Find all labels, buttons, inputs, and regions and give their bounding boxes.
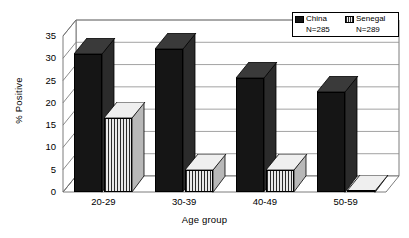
legend-swatch-icon xyxy=(295,16,304,23)
legend-label: Senegal xyxy=(356,14,385,24)
bar-chart: % Positive 05101520253035 20-2930-3940-4… xyxy=(0,0,409,238)
x-tick-label: 30-39 xyxy=(172,197,196,207)
x-tick-label: 40-49 xyxy=(253,197,277,207)
legend-sample-size: N=285 xyxy=(306,25,330,35)
legend-label: China xyxy=(306,14,327,24)
x-tick-label: 20-29 xyxy=(91,197,115,207)
legend-swatch-icon xyxy=(345,16,354,23)
chart-legend: China N=285 Senegal N=289 xyxy=(292,12,399,37)
x-axis-title: Age group xyxy=(0,214,409,225)
legend-sample-size: N=289 xyxy=(356,25,380,35)
x-tick-label: 50-59 xyxy=(333,197,357,207)
